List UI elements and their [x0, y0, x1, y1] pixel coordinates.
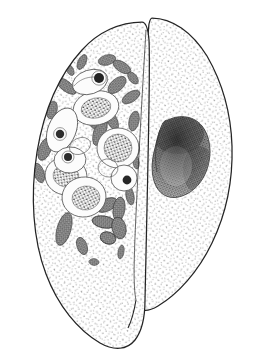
vacuole-granular-2	[97, 128, 139, 168]
vacuole-nucleated-3	[111, 165, 137, 191]
cell-illustration	[0, 0, 258, 360]
figure-container: Scientific pen-and-ink stipple illustrat…	[0, 0, 258, 360]
